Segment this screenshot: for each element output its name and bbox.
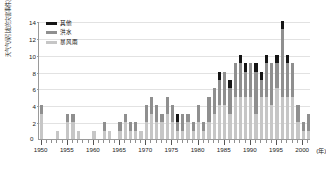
bar-segment-other — [244, 63, 247, 71]
bar-segment-flood — [160, 114, 163, 122]
x-tick-minor — [130, 140, 131, 143]
bar-segment-flood — [275, 63, 278, 88]
bar-1994 — [270, 63, 273, 139]
bar-segment-flood — [186, 114, 189, 122]
bar-segment-storm — [92, 131, 95, 139]
bar-segment-flood — [40, 105, 43, 113]
bar-segment-flood — [281, 29, 284, 96]
bar-segment-flood — [192, 122, 195, 130]
bar-1990 — [249, 63, 252, 139]
bar-segment-flood — [249, 63, 252, 97]
bar-segment-flood — [118, 122, 121, 130]
x-tick-minor — [51, 140, 52, 143]
x-tick-minor — [77, 140, 78, 143]
bar-1998 — [291, 63, 294, 139]
bar-1975 — [171, 105, 174, 139]
bar-2001 — [307, 114, 310, 139]
x-tick-minor — [56, 140, 57, 143]
bar-segment-storm — [197, 122, 200, 139]
bar-1981 — [202, 122, 205, 139]
x-axis: 1950195519601965197019751980198519901995… — [38, 140, 310, 170]
bar-segment-storm — [150, 114, 153, 139]
x-tick-minor — [234, 140, 235, 143]
y-axis-title: 天气气候引发的灾害事件次数 — [2, 0, 14, 84]
x-tick-label: 1970 — [138, 146, 152, 153]
x-tick-major — [171, 140, 172, 145]
legend-item-flood: 洪水 — [46, 29, 78, 36]
x-tick-minor — [255, 140, 256, 143]
bar-segment-flood — [291, 63, 294, 97]
x-tick-minor — [213, 140, 214, 143]
bar-1987 — [234, 63, 237, 139]
bar-segment-flood — [260, 80, 263, 97]
x-tick-label: 1960 — [86, 146, 100, 153]
bar-segment-storm — [302, 131, 305, 139]
x-tick-minor — [103, 140, 104, 143]
bar-2000 — [302, 122, 305, 139]
bar-segment-storm — [181, 131, 184, 139]
bar-segment-storm — [296, 122, 299, 139]
x-tick-minor — [281, 140, 282, 143]
bar-1991 — [254, 63, 257, 139]
bar-segment-flood — [181, 114, 184, 131]
bar-1984 — [218, 72, 221, 139]
bar-1978 — [186, 114, 189, 139]
bar-1988 — [239, 55, 242, 139]
bar-1993 — [265, 55, 268, 139]
legend-swatch-flood — [46, 31, 57, 34]
y-tick-label: 4 — [33, 103, 36, 110]
x-tick-minor — [177, 140, 178, 143]
bar-segment-storm — [275, 88, 278, 139]
bar-segment-flood — [134, 122, 137, 130]
bar-segment-flood — [202, 122, 205, 130]
bar-segment-storm — [71, 122, 74, 139]
bar-segment-storm — [186, 122, 189, 139]
bar-segment-flood — [286, 63, 289, 97]
bar-segment-flood — [155, 105, 158, 122]
bar-segment-storm — [77, 131, 80, 139]
bar-1960 — [92, 131, 95, 139]
bar-segment-storm — [223, 105, 226, 139]
x-tick-major — [145, 140, 146, 145]
x-tick-major — [198, 140, 199, 145]
bar-segment-flood — [234, 63, 237, 97]
x-tick-minor — [88, 140, 89, 143]
bar-1953 — [56, 131, 59, 139]
bar-1997 — [286, 55, 289, 139]
y-tick-label: 10 — [29, 52, 36, 59]
bar-segment-storm — [265, 97, 268, 139]
bar-1956 — [71, 114, 74, 139]
x-tick-minor — [271, 140, 272, 143]
bar-segment-other — [286, 55, 289, 63]
bar-1995 — [275, 55, 278, 139]
bar-1955 — [66, 114, 69, 139]
bar-segment-other — [265, 55, 268, 63]
bar-segment-storm — [254, 114, 257, 139]
bar-1985 — [223, 72, 226, 139]
bar-1966 — [124, 114, 127, 139]
bar-segment-other — [254, 63, 257, 71]
bar-segment-storm — [40, 114, 43, 139]
bar-segment-storm — [66, 122, 69, 139]
bar-segment-flood — [270, 63, 273, 105]
x-tick-minor — [286, 140, 287, 143]
x-tick-minor — [260, 140, 261, 143]
y-tick-label: 14 — [29, 19, 36, 26]
bar-1965 — [118, 122, 121, 139]
bar-segment-flood — [302, 122, 305, 130]
x-tick-minor — [192, 140, 193, 143]
x-tick-minor — [109, 140, 110, 143]
x-tick-label: 1975 — [164, 146, 178, 153]
legend-label-other: 其他 — [60, 20, 72, 27]
bar-series-group — [39, 22, 310, 139]
x-tick-major — [119, 140, 120, 145]
x-tick-minor — [218, 140, 219, 143]
bar-1967 — [129, 122, 132, 139]
x-tick-minor — [208, 140, 209, 143]
x-tick-minor — [46, 140, 47, 143]
x-tick-label: 1995 — [269, 146, 283, 153]
bar-segment-flood — [244, 72, 247, 97]
bar-segment-storm — [281, 97, 284, 139]
bar-1992 — [260, 72, 263, 139]
bar-segment-storm — [244, 97, 247, 139]
